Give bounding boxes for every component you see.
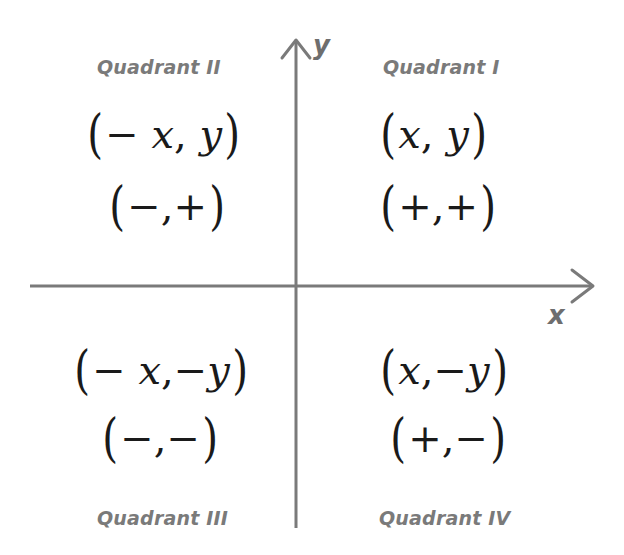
close-paren: ) bbox=[492, 340, 508, 400]
sign-x: − bbox=[120, 415, 154, 461]
quadrant-iv-label: Quadrant IV bbox=[379, 507, 511, 529]
coord-separator: , bbox=[421, 347, 434, 393]
open-paren: ( bbox=[74, 340, 90, 400]
sign-separator: , bbox=[161, 183, 174, 229]
quadrant-ii-coordinate: (− x, y) bbox=[85, 104, 242, 164]
coordinate-axes bbox=[0, 0, 624, 555]
quadrant-iv-signs: (+,−) bbox=[388, 408, 508, 468]
quadrant-i-coordinate: (x, y) bbox=[378, 104, 489, 164]
quadrant-i-signs: (+,+) bbox=[378, 176, 498, 236]
quadrant-ii-signs: (−,+) bbox=[107, 176, 227, 236]
x-axis-label: x bbox=[548, 300, 565, 330]
quadrant-ii-label: Quadrant II bbox=[97, 56, 221, 78]
coord-x: − x bbox=[92, 347, 161, 393]
coord-separator: , bbox=[174, 111, 187, 157]
sign-separator: , bbox=[442, 415, 455, 461]
open-paren: ( bbox=[380, 176, 396, 236]
quadrant-diagram: y x Quadrant II Quadrant I Quadrant III … bbox=[0, 0, 624, 555]
close-paren: ) bbox=[471, 104, 487, 164]
sign-y: − bbox=[167, 415, 201, 461]
quadrant-iii-label: Quadrant III bbox=[97, 507, 228, 529]
open-paren: ( bbox=[380, 104, 396, 164]
quadrant-iii-signs: (−,−) bbox=[100, 408, 220, 468]
open-paren: ( bbox=[380, 340, 396, 400]
sign-x: + bbox=[398, 183, 432, 229]
close-paren: ) bbox=[202, 408, 218, 468]
open-paren: ( bbox=[109, 176, 125, 236]
quadrant-iv-coordinate: (x,−y) bbox=[378, 340, 510, 400]
open-paren: ( bbox=[390, 408, 406, 468]
coord-separator: , bbox=[421, 111, 434, 157]
y-axis-label: y bbox=[313, 30, 330, 60]
open-paren: ( bbox=[102, 408, 118, 468]
close-paren: ) bbox=[232, 340, 248, 400]
coord-y: y bbox=[446, 111, 469, 157]
sign-y: + bbox=[445, 183, 479, 229]
sign-y: + bbox=[174, 183, 208, 229]
sign-separator: , bbox=[432, 183, 445, 229]
sign-separator: , bbox=[154, 415, 167, 461]
coord-separator: , bbox=[161, 347, 174, 393]
quadrant-iii-coordinate: (− x,−y) bbox=[72, 340, 250, 400]
close-paren: ) bbox=[224, 104, 240, 164]
coord-y: y bbox=[200, 111, 223, 157]
close-paren: ) bbox=[490, 408, 506, 468]
open-paren: ( bbox=[87, 104, 103, 164]
sign-x: + bbox=[408, 415, 442, 461]
coord-y: −y bbox=[174, 347, 230, 393]
coord-x: x bbox=[398, 347, 421, 393]
coord-x: − x bbox=[105, 111, 174, 157]
coord-y: −y bbox=[434, 347, 490, 393]
close-paren: ) bbox=[480, 176, 496, 236]
sign-y: − bbox=[455, 415, 489, 461]
coord-x: x bbox=[398, 111, 421, 157]
close-paren: ) bbox=[209, 176, 225, 236]
sign-x: − bbox=[127, 183, 161, 229]
quadrant-i-label: Quadrant I bbox=[383, 56, 500, 78]
